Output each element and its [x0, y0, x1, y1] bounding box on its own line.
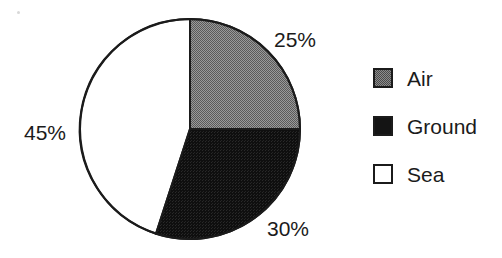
legend-item-sea: Sea: [373, 162, 444, 186]
pie-label-sea-percent: 45%: [24, 122, 66, 143]
pie-chart-figure: 25% 45% 30% Air Ground Sea: [0, 0, 502, 258]
pie-label-ground-percent: 30%: [267, 218, 309, 239]
legend-label-ground: Ground: [407, 116, 477, 137]
legend-swatch-air-icon: [373, 68, 393, 88]
legend-item-air: Air: [373, 66, 433, 90]
legend-swatch-sea-icon: [373, 164, 393, 184]
pie-label-air-percent: 25%: [274, 29, 316, 50]
pie-chart-area: 25% 45% 30%: [0, 0, 330, 258]
legend-item-ground: Ground: [373, 114, 477, 138]
legend-label-air: Air: [407, 68, 433, 89]
legend-label-sea: Sea: [407, 164, 444, 185]
legend-swatch-ground-icon: [373, 116, 393, 136]
